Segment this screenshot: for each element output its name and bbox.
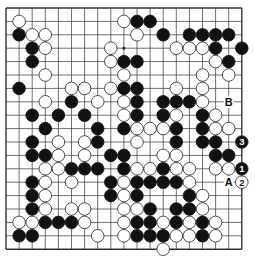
black-stone (170, 176, 183, 189)
white-stone (131, 163, 144, 176)
black-stone (170, 136, 183, 149)
white-stone (39, 189, 52, 202)
black-stone (157, 109, 170, 122)
black-stone (131, 216, 144, 229)
white-stone (78, 203, 91, 216)
white-stone (183, 230, 196, 243)
black-stone (52, 109, 65, 122)
black-stone (196, 109, 209, 122)
white-stone (170, 163, 183, 176)
black-stone (13, 29, 26, 42)
white-stone (209, 122, 222, 135)
white-stone (118, 69, 131, 82)
black-stone (170, 122, 183, 135)
white-stone (183, 42, 196, 55)
white-stone (52, 163, 65, 176)
black-stone (118, 82, 131, 95)
black-stone (26, 136, 39, 149)
black-stone (131, 82, 144, 95)
black-stone (131, 96, 144, 109)
white-stone (196, 189, 209, 202)
white-stone (170, 109, 183, 122)
white-stone (118, 96, 131, 109)
black-stone (78, 163, 91, 176)
black-stone (209, 136, 222, 149)
white-stone (209, 55, 222, 68)
black-stone (118, 149, 131, 162)
white-stone (118, 203, 131, 216)
black-stone (131, 55, 144, 68)
black-stone (209, 42, 222, 55)
white-stone (157, 216, 170, 229)
white-stone (26, 29, 39, 42)
white-stone (78, 149, 91, 162)
black-stone (236, 42, 249, 55)
white-stone (196, 203, 209, 216)
black-stone (26, 55, 39, 68)
black-stone (91, 136, 104, 149)
black-stone (118, 163, 131, 176)
white-stone (144, 122, 157, 135)
white-stone (209, 109, 222, 122)
black-stone (26, 203, 39, 216)
black-stone (131, 109, 144, 122)
black-stone (157, 29, 170, 42)
black-stone (144, 203, 157, 216)
black-stone (209, 149, 222, 162)
white-stone (209, 216, 222, 229)
black-stone (222, 55, 235, 68)
white-stone (209, 163, 222, 176)
white-stone (157, 122, 170, 135)
move-number-label: 3 (239, 136, 244, 147)
white-stone (39, 176, 52, 189)
black-stone (65, 96, 78, 109)
white-stone (65, 176, 78, 189)
black-stone (131, 230, 144, 243)
black-stone (144, 176, 157, 189)
black-stone (105, 149, 118, 162)
white-stone (157, 243, 170, 256)
black-stone (105, 176, 118, 189)
white-stone (65, 203, 78, 216)
white-stone (131, 203, 144, 216)
white-stone (39, 163, 52, 176)
white-stone (196, 82, 209, 95)
white-stone (170, 42, 183, 55)
white-stone (13, 15, 26, 28)
black-stone (26, 149, 39, 162)
black-stone (105, 189, 118, 202)
letter-mark-a: A (225, 176, 233, 188)
white-stone (91, 96, 104, 109)
black-stone (222, 29, 235, 42)
black-stone (131, 176, 144, 189)
black-stone (26, 230, 39, 243)
white-stone (105, 55, 118, 68)
black-stone (157, 96, 170, 109)
white-stone (131, 136, 144, 149)
white-stone (209, 230, 222, 243)
black-stone (131, 15, 144, 28)
white-stone (26, 216, 39, 229)
white-stone (91, 230, 104, 243)
white-stone (78, 82, 91, 95)
move-number-label: 1 (239, 163, 245, 174)
white-stone (65, 82, 78, 95)
black-stone (26, 189, 39, 202)
white-stone (183, 216, 196, 229)
white-stone (118, 109, 131, 122)
white-stone (39, 69, 52, 82)
black-stone (183, 203, 196, 216)
white-stone (118, 189, 131, 202)
black-stone (196, 216, 209, 229)
white-stone (196, 69, 209, 82)
black-stone (157, 163, 170, 176)
white-stone (118, 216, 131, 229)
white-stone (118, 176, 131, 189)
white-stone (39, 203, 52, 216)
white-stone (183, 163, 196, 176)
white-stone (105, 42, 118, 55)
black-stone (131, 189, 144, 202)
black-stone (65, 216, 78, 229)
black-stone (26, 109, 39, 122)
black-stone (183, 96, 196, 109)
